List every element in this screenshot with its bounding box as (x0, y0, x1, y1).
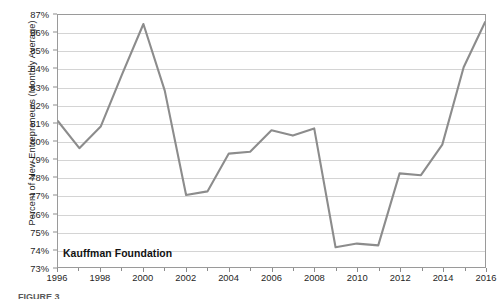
x-axis-minor-tick-mark (250, 268, 251, 271)
y-axis-tick-label: 86% (9, 27, 49, 38)
series-polyline (58, 22, 485, 247)
y-axis-tick-label: 80% (9, 136, 49, 147)
x-axis-tick-mark (229, 268, 230, 272)
x-axis-tick-label: 2010 (337, 272, 377, 283)
x-axis-minor-tick-mark (78, 268, 79, 271)
x-axis-tick-label: 1996 (37, 272, 77, 283)
y-axis-tick-label: 79% (9, 154, 49, 165)
x-axis-tick-label: 2016 (466, 272, 500, 283)
x-axis-tick-label: 2002 (166, 272, 206, 283)
x-axis-tick-mark (100, 268, 101, 272)
x-axis-tick-mark (143, 268, 144, 272)
y-axis-tick-label: 78% (9, 172, 49, 183)
x-axis-minor-tick-mark (336, 268, 337, 271)
figure-caption-cutoff: FIGURE 3 (18, 292, 60, 299)
y-axis-tick-label: 75% (9, 226, 49, 237)
y-axis-tick-label: 76% (9, 208, 49, 219)
chart-container: Percent of New Entrepreneurs (Monthly Av… (0, 0, 500, 299)
x-axis-tick-label: 1998 (80, 272, 120, 283)
x-axis-minor-tick-mark (465, 268, 466, 271)
x-axis-tick-mark (400, 268, 401, 272)
x-axis-tick-mark (486, 268, 487, 272)
x-axis-minor-tick-mark (164, 268, 165, 271)
y-axis-tick-label: 82% (9, 99, 49, 110)
x-axis-tick-mark (272, 268, 273, 272)
x-axis-tick-mark (57, 268, 58, 272)
y-axis-tick-label: 84% (9, 63, 49, 74)
x-axis-minor-tick-mark (379, 268, 380, 271)
x-axis-tick-mark (186, 268, 187, 272)
x-axis-minor-tick-mark (422, 268, 423, 271)
x-axis-minor-tick-mark (207, 268, 208, 271)
x-axis-tick-label: 2012 (380, 272, 420, 283)
y-axis-tick-label: 74% (9, 244, 49, 255)
y-axis-tick-label: 87% (9, 9, 49, 20)
x-axis-minor-tick-mark (293, 268, 294, 271)
y-axis-tick-label: 83% (9, 81, 49, 92)
kauffman-foundation-watermark: Kauffman Foundation (63, 248, 172, 259)
x-axis-tick-label: 2014 (423, 272, 463, 283)
x-axis-tick-label: 2008 (294, 272, 334, 283)
x-axis-tick-mark (443, 268, 444, 272)
x-axis-tick-label: 2000 (123, 272, 163, 283)
y-axis-tick-label: 85% (9, 45, 49, 56)
x-axis-tick-mark (357, 268, 358, 272)
y-axis-tick-label: 77% (9, 190, 49, 201)
x-axis-tick-label: 2006 (252, 272, 292, 283)
line-series (58, 15, 485, 267)
x-axis-tick-label: 2004 (209, 272, 249, 283)
y-axis-tick-label: 81% (9, 117, 49, 128)
plot-area (57, 14, 486, 268)
x-axis-tick-mark (314, 268, 315, 272)
x-axis-minor-tick-mark (121, 268, 122, 271)
